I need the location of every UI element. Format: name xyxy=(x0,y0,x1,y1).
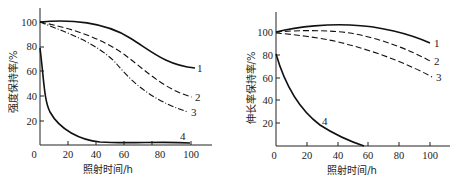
left-curve-label-2: 2 xyxy=(195,91,201,103)
right-curve-label-4: 4 xyxy=(322,115,328,127)
right-curve-label-1: 1 xyxy=(434,37,440,49)
right-xtick-20: 20 xyxy=(302,150,313,161)
left-xtick-20: 20 xyxy=(63,149,74,160)
left-curve-label-4: 4 xyxy=(180,130,186,142)
right-xtick-80: 80 xyxy=(394,150,405,161)
left-y-ticks: 100 80 60 40 20 xyxy=(21,17,44,127)
right-ytick-80: 80 xyxy=(263,50,274,61)
left-xtick-40: 40 xyxy=(91,149,102,160)
left-xtick-100: 100 xyxy=(183,149,199,160)
right-x-axis-label: 照射时间/h xyxy=(327,164,377,176)
right-curve-label-2: 2 xyxy=(434,55,440,67)
right-curve-3 xyxy=(276,33,432,77)
left-y-axis-label: 强度保持率/% xyxy=(7,51,19,114)
right-ytick-60: 60 xyxy=(263,73,274,84)
left-x-ticks: 0 20 40 60 80 100 xyxy=(31,141,199,160)
right-xtick-40: 40 xyxy=(333,150,344,161)
right-curve-label-3: 3 xyxy=(436,71,442,83)
left-curve-label-1: 1 xyxy=(197,62,203,74)
left-curve-2 xyxy=(40,22,192,97)
right-xtick-60: 60 xyxy=(363,150,374,161)
right-ytick-20: 20 xyxy=(263,118,274,129)
left-curve-label-3: 3 xyxy=(191,106,197,118)
left-curve-1 xyxy=(40,21,195,68)
right-curve-4 xyxy=(276,54,364,146)
right-ytick-100: 100 xyxy=(257,27,273,38)
left-ytick-20: 20 xyxy=(27,116,38,127)
left-chart: 100 80 60 40 20 0 20 40 60 80 100 1 2 3 xyxy=(7,8,212,175)
left-xtick-60: 60 xyxy=(119,149,130,160)
left-xtick-0: 0 xyxy=(31,149,36,160)
right-chart: 100 80 60 40 20 0 20 40 60 80 100 1 2 3 xyxy=(245,12,450,176)
left-curve-3 xyxy=(40,22,188,112)
right-x-ticks: 0 20 40 60 80 100 xyxy=(271,142,438,161)
right-ytick-40: 40 xyxy=(263,95,274,106)
left-xtick-80: 80 xyxy=(155,149,166,160)
figure: 100 80 60 40 20 0 20 40 60 80 100 1 2 3 xyxy=(0,0,458,179)
left-ytick-60: 60 xyxy=(27,66,38,77)
right-y-axis-label: 伸长率保持率/% xyxy=(245,52,257,125)
left-ytick-40: 40 xyxy=(27,91,38,102)
right-xtick-100: 100 xyxy=(422,150,438,161)
left-ytick-80: 80 xyxy=(27,41,38,52)
left-x-axis-label: 照射时间/h xyxy=(83,163,133,175)
right-y-ticks: 100 80 60 40 20 xyxy=(257,27,280,129)
right-xtick-0: 0 xyxy=(271,150,276,161)
left-ytick-100: 100 xyxy=(21,17,37,28)
